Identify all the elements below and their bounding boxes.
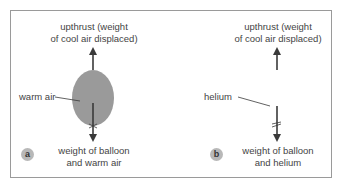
panel-badge-a: a: [21, 148, 34, 161]
warm-air-label: warm air: [19, 91, 55, 103]
helium-leader: [238, 97, 270, 106]
weight-label-b: weight of balloon and helium: [234, 145, 322, 168]
upthrust-label-a: upthrust (weight of cool air displaced): [50, 21, 138, 44]
helium-label: helium: [204, 91, 232, 103]
panel-badge-b: b: [210, 148, 223, 161]
panel-a-graphics: [55, 51, 114, 138]
upthrust-label-b: upthrust (weight of cool air displaced): [234, 21, 322, 44]
weight-label-a: weight of balloon and warm air: [50, 145, 138, 168]
panel-b-graphics: [238, 51, 281, 138]
